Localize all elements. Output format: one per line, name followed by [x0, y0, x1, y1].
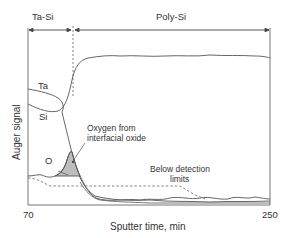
region-label-ta-si: Ta-Si [32, 11, 54, 22]
x-axis-label: Sputter time, min [110, 221, 186, 232]
series-label-ta: Ta [38, 80, 49, 91]
annotation-below-line1: Below detection [150, 164, 210, 174]
oxide-peak-fill [55, 151, 80, 176]
region-arrows [29, 28, 269, 32]
si-curve [28, 55, 270, 112]
annotation-below-line2: limits [170, 174, 189, 184]
series-label-si: Si [39, 111, 47, 122]
x-tick-250: 250 [262, 209, 278, 220]
y-axis-label: Auger signal [11, 104, 22, 160]
region-label-poly-si: Poly-Si [156, 11, 186, 22]
series-label-o: O [45, 155, 52, 166]
annotation-oxide-line2: interfacial oxide [87, 133, 146, 143]
annotation-oxide-line1: Oxygen from [87, 123, 136, 133]
oxide-marker [72, 161, 74, 163]
x-tick-70: 70 [23, 209, 34, 220]
oxide-leader [73, 143, 85, 161]
chart: Ta-Si Poly-Si Ta Si O Oxygen from interf… [0, 0, 284, 238]
ta-curve [28, 89, 270, 202]
